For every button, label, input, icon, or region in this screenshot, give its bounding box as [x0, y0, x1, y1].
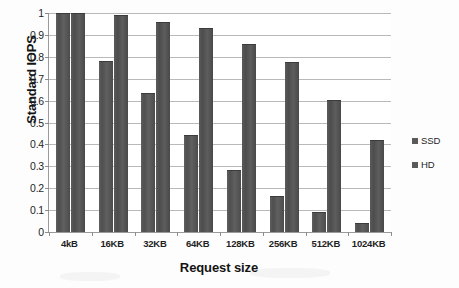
- x-axis-tick-label: 1024KB: [347, 238, 390, 249]
- bar-chart: Standard IOPS 00.10.20.30.40.50.60.70.80…: [0, 0, 459, 288]
- x-axis-tickmark: [220, 232, 221, 236]
- bar-group: [348, 13, 391, 232]
- y-axis-tick-label: 1: [38, 7, 44, 19]
- bar-ssd-64kb: [184, 135, 198, 232]
- bar-hd-32kb: [156, 22, 170, 232]
- bar-ssd-128kb: [227, 170, 241, 232]
- y-axis-tick-label: 0.3: [30, 160, 44, 172]
- bar-ssd-16kb: [99, 61, 113, 232]
- bar-ssd-4kb: [56, 13, 70, 232]
- y-axis-tick-label: 0.8: [30, 51, 44, 63]
- x-axis-tick-label: 4kB: [48, 238, 91, 249]
- bar-group: [49, 13, 92, 232]
- x-axis-tick-label: 16KB: [91, 238, 134, 249]
- bar-group: [263, 13, 306, 232]
- bar-ssd-256kb: [270, 196, 284, 232]
- y-axis-tick-label: 0.5: [30, 117, 44, 129]
- bar-groups: [49, 13, 391, 232]
- bar-hd-128kb: [242, 44, 256, 232]
- x-axis-tick-label: 256KB: [262, 238, 305, 249]
- x-axis-tickmark: [92, 232, 93, 236]
- bar-hd-16kb: [114, 15, 128, 232]
- bar-group: [92, 13, 135, 232]
- bar-hd-512kb: [327, 100, 341, 232]
- bar-hd-4kb: [71, 13, 85, 232]
- y-axis-tick-label: 0.9: [30, 29, 44, 41]
- y-axis-tick-label: 0.6: [30, 95, 44, 107]
- x-axis-tickmark: [306, 232, 307, 236]
- y-axis-tick-label: 0: [38, 226, 44, 238]
- y-axis-tick-label: 0.4: [30, 138, 44, 150]
- legend-label: SSD: [421, 135, 440, 146]
- bar-ssd-32kb: [141, 93, 155, 232]
- x-axis-tick-label: 64KB: [176, 238, 219, 249]
- bar-group: [177, 13, 220, 232]
- legend: SSDHD: [412, 135, 440, 170]
- legend-swatch-icon: [412, 138, 418, 144]
- bar-hd-1024kb: [370, 140, 384, 232]
- y-axis-tick-label: 0.1: [30, 204, 44, 216]
- plot-area: [48, 13, 391, 233]
- legend-label: HD: [421, 159, 435, 170]
- x-axis-title: Request size: [48, 260, 390, 275]
- y-axis-tick-labels: 00.10.20.30.40.50.60.70.80.91: [14, 13, 44, 232]
- x-axis-tickmark: [177, 232, 178, 236]
- x-axis-tick-labels: 4kB16KB32KB64KB128KB256KB512KB1024KB: [48, 238, 390, 249]
- bar-ssd-1024kb: [355, 223, 369, 232]
- bar-group: [306, 13, 349, 232]
- x-axis-tickmark: [391, 232, 392, 236]
- x-axis-tick-label: 32KB: [134, 238, 177, 249]
- bar-hd-256kb: [285, 62, 299, 232]
- legend-swatch-icon: [412, 162, 418, 168]
- x-axis-tickmark: [49, 232, 50, 236]
- bar-group: [220, 13, 263, 232]
- x-axis-tickmark: [135, 232, 136, 236]
- bar-group: [135, 13, 178, 232]
- legend-item-ssd[interactable]: SSD: [412, 135, 440, 146]
- x-axis-tickmark: [348, 232, 349, 236]
- y-axis-tick-label: 0.2: [30, 182, 44, 194]
- x-axis-tick-label: 128KB: [219, 238, 262, 249]
- x-axis-tick-label: 512KB: [305, 238, 348, 249]
- bar-hd-64kb: [199, 28, 213, 232]
- bar-ssd-512kb: [312, 212, 326, 232]
- y-axis-tick-label: 0.7: [30, 73, 44, 85]
- legend-item-hd[interactable]: HD: [412, 159, 440, 170]
- x-axis-tickmark: [263, 232, 264, 236]
